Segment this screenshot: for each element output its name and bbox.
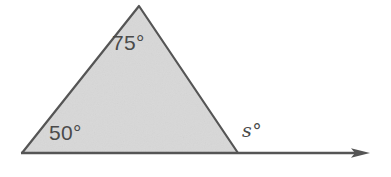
triangle-diagram-svg [0, 0, 391, 177]
exterior-angle-label: s° [242, 121, 262, 140]
geometry-figure: 75° 50° s° [0, 0, 391, 177]
left-base-angle-label: 50° [49, 122, 82, 143]
apex-angle-label: 75° [112, 32, 145, 53]
